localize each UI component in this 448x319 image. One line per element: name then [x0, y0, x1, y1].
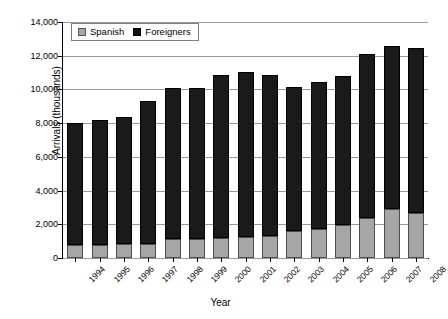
- bar-segment-foreigners: [189, 88, 205, 239]
- bar-segment-foreigners: [213, 75, 229, 238]
- x-axis-tick-mark: [246, 258, 247, 262]
- y-axis-tick-mark: [58, 89, 62, 90]
- bar-segment-spanish: [408, 213, 424, 258]
- y-axis-tick-label: 14,000: [30, 18, 58, 27]
- legend-swatch-spanish-icon: [78, 28, 86, 36]
- bar-segment-spanish: [286, 231, 302, 258]
- x-axis-tick-mark: [367, 258, 368, 262]
- bar-segment-foreigners: [92, 120, 108, 245]
- x-axis-tick-mark: [124, 258, 125, 262]
- x-axis-tick-label: 1998: [184, 264, 204, 284]
- bar-stack: [286, 22, 302, 258]
- legend-swatch-foreigners-icon: [133, 28, 141, 36]
- bar-segment-spanish: [189, 239, 205, 258]
- bar-stack: [140, 22, 156, 258]
- bar-segment-spanish: [165, 239, 181, 258]
- y-axis-tick-label: 2,000: [35, 220, 58, 229]
- x-axis-tick-label: 2002: [281, 264, 301, 284]
- bar-segment-spanish: [67, 245, 83, 258]
- x-axis-tick-label: 1999: [208, 264, 228, 284]
- y-axis-tick-label: 6,000: [35, 153, 58, 162]
- x-axis-tick-mark: [392, 258, 393, 262]
- x-axis-tick-mark: [148, 258, 149, 262]
- x-axis-tick-label: 2007: [403, 264, 423, 284]
- x-axis-tick-label: 2005: [354, 264, 374, 284]
- bar-stack: [311, 22, 327, 258]
- x-axis-tick-mark: [270, 258, 271, 262]
- bar-segment-foreigners: [165, 88, 181, 240]
- bar-segment-spanish: [311, 229, 327, 258]
- bar-stack: [359, 22, 375, 258]
- x-axis-tick-mark: [197, 258, 198, 262]
- bar-stack: [262, 22, 278, 258]
- bar-segment-spanish: [335, 225, 351, 258]
- y-axis-tick-mark: [58, 191, 62, 192]
- plot-area: [63, 22, 428, 258]
- y-axis-tick-mark: [58, 258, 62, 259]
- x-axis-tick-label: 1994: [87, 264, 107, 284]
- x-axis-tick-label: 1996: [135, 264, 155, 284]
- bar-segment-foreigners: [262, 75, 278, 236]
- y-axis-tick-mark: [58, 22, 62, 23]
- y-axis-tick-mark: [58, 56, 62, 57]
- bar-segment-foreigners: [311, 82, 327, 230]
- y-axis-tick-mark: [58, 224, 62, 225]
- x-axis-tick-label: 2004: [330, 264, 350, 284]
- bar-segment-foreigners: [116, 117, 132, 243]
- bar-segment-foreigners: [140, 101, 156, 243]
- y-axis-tick-label: 10,000: [30, 85, 58, 94]
- x-axis-tick-label: 1997: [160, 264, 180, 284]
- chart-legend: Spanish Foreigners: [71, 23, 199, 41]
- bar-segment-spanish: [262, 236, 278, 258]
- bar-stack: [213, 22, 229, 258]
- y-axis-tick-label: 8,000: [35, 119, 58, 128]
- x-axis-tick-mark: [100, 258, 101, 262]
- x-axis-tick-label: 2008: [427, 264, 447, 284]
- x-axis-tick-mark: [221, 258, 222, 262]
- y-axis-tick-labels: 02,0004,0006,0008,00010,00012,00014,000: [0, 0, 58, 319]
- bar-stack: [92, 22, 108, 258]
- bar-segment-foreigners: [384, 46, 400, 209]
- bar-segment-foreigners: [408, 48, 424, 213]
- legend-item-foreigners: Foreigners: [133, 27, 190, 37]
- x-axis-tick-mark: [416, 258, 417, 262]
- x-axis-tick-label: 2000: [233, 264, 253, 284]
- bar-segment-foreigners: [238, 72, 254, 237]
- bar-segment-spanish: [238, 237, 254, 258]
- x-axis-tick-label: 2001: [257, 264, 277, 284]
- bar-segment-spanish: [92, 245, 108, 258]
- legend-label-foreigners: Foreigners: [145, 27, 190, 37]
- bar-stack: [408, 22, 424, 258]
- x-axis-tick-mark: [294, 258, 295, 262]
- y-axis-tick-mark: [58, 123, 62, 124]
- x-axis-tick-mark: [319, 258, 320, 262]
- legend-label-spanish: Spanish: [90, 27, 124, 37]
- bar-stack: [165, 22, 181, 258]
- bar-stack: [189, 22, 205, 258]
- x-axis-tick-label: 2006: [379, 264, 399, 284]
- legend-item-spanish: Spanish: [78, 27, 124, 37]
- bar-stack: [335, 22, 351, 258]
- bar-segment-spanish: [116, 244, 132, 258]
- x-axis-tick-mark: [75, 258, 76, 262]
- x-axis-tick-label: 1995: [111, 264, 131, 284]
- bar-segment-spanish: [140, 244, 156, 258]
- x-axis-tick-mark: [173, 258, 174, 262]
- bar-segment-foreigners: [286, 87, 302, 231]
- bar-segment-spanish: [384, 209, 400, 258]
- x-axis-title: Year: [0, 297, 441, 308]
- x-axis-tick-label: 2003: [306, 264, 326, 284]
- x-axis-tick-mark: [343, 258, 344, 262]
- bar-stack: [116, 22, 132, 258]
- bar-segment-spanish: [359, 218, 375, 258]
- bar-stack: [238, 22, 254, 258]
- bar-segment-foreigners: [359, 54, 375, 218]
- bar-segment-foreigners: [335, 76, 351, 225]
- bar-segment-spanish: [213, 238, 229, 258]
- bar-stack: [67, 22, 83, 258]
- bar-segment-foreigners: [67, 123, 83, 244]
- bar-stack: [384, 22, 400, 258]
- y-axis-tick-mark: [58, 157, 62, 158]
- y-axis-tick-label: 4,000: [35, 187, 58, 196]
